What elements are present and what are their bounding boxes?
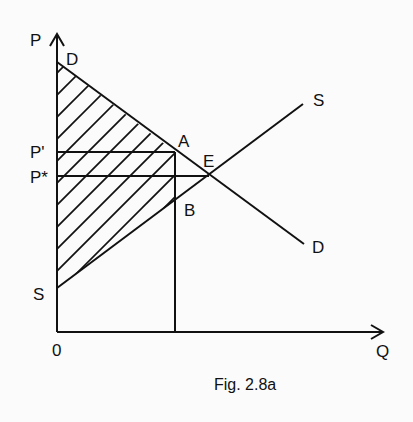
point-e-label: E [203, 152, 214, 171]
origin-label: 0 [52, 341, 61, 360]
p-star-label: P* [30, 168, 48, 187]
demand-start-label: D [66, 50, 78, 69]
point-a-label: A [178, 132, 190, 151]
demand-end-label: D [312, 238, 324, 257]
p-prime-label: P' [30, 143, 45, 162]
supply-start-label: S [33, 285, 44, 304]
y-axis-label: P [30, 31, 41, 50]
axes [50, 34, 383, 339]
supply-end-label: S [313, 91, 324, 110]
x-axis-label: Q [376, 342, 389, 361]
point-b-label: B [184, 201, 195, 220]
supply-demand-diagram: P Q 0 D D S S P' P* A E B Fig. 2.8a [0, 0, 413, 422]
figure-caption: Fig. 2.8a [214, 376, 276, 393]
